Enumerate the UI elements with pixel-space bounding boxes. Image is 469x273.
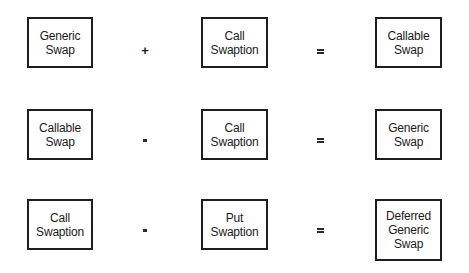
box-generic-swap: Generic Swap (27, 17, 93, 68)
plus-sign: + (141, 45, 149, 57)
box-label-line: Swaption (211, 225, 259, 239)
box-call-swaption: Call Swaption (27, 199, 93, 250)
box-callable-swap: Callable Swap (27, 109, 93, 160)
box-label-line: Generic (40, 29, 81, 43)
box-label-line: Put (226, 211, 243, 225)
box-label-line: Call (50, 211, 70, 225)
box-label-line: Deferred (386, 209, 431, 223)
box-label-line: Swaption (36, 225, 84, 239)
box-call-swaption: Call Swaption (201, 17, 268, 68)
box-label-line: Swap (394, 43, 423, 57)
equals-sign (317, 138, 324, 143)
box-label-line: Generic (388, 223, 429, 237)
box-put-swaption: Put Swaption (201, 199, 268, 250)
box-label-line: Generic (388, 121, 429, 135)
minus-operator (135, 224, 155, 236)
box-label-line: Swap (45, 43, 74, 57)
equals-sign (317, 228, 324, 233)
box-label-line: Swap (394, 237, 423, 251)
box-label-line: Swap (394, 135, 423, 149)
equals-operator (310, 45, 330, 57)
box-callable-swap-result: Callable Swap (375, 17, 442, 68)
box-generic-swap-result: Generic Swap (375, 109, 442, 160)
equals-operator (310, 134, 330, 146)
minus-sign (143, 229, 147, 232)
equals-sign (317, 49, 324, 54)
box-label-line: Swaption (211, 43, 259, 57)
box-label-line: Call (225, 29, 245, 43)
equals-operator (310, 224, 330, 236)
box-label-line: Callable (39, 121, 81, 135)
plus-operator: + (135, 45, 155, 57)
box-label-line: Swaption (211, 135, 259, 149)
box-label-line: Callable (388, 29, 430, 43)
minus-operator (135, 134, 155, 146)
box-deferred-generic-swap-result: Deferred Generic Swap (375, 199, 442, 261)
box-label-line: Call (225, 121, 245, 135)
minus-sign (143, 139, 147, 142)
box-label-line: Swap (45, 135, 74, 149)
box-call-swaption: Call Swaption (201, 109, 268, 160)
